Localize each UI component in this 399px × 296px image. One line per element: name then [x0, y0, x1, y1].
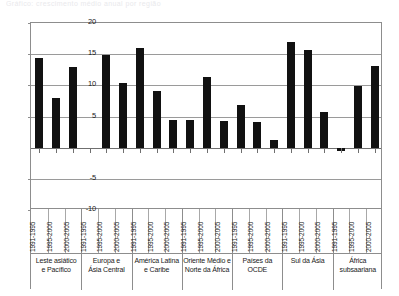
period-label: 1991-1995	[331, 212, 338, 252]
group-label-line2: e Pacífico	[31, 266, 81, 275]
period-label: 2000-2005	[113, 212, 120, 252]
group-label-line2: Ásia Central	[81, 266, 131, 275]
group-label: Europa eÁsia Central	[81, 257, 131, 274]
group-label-line2: e Caribe	[132, 266, 182, 275]
group-label-line1: Leste asiático	[31, 257, 81, 266]
period-label: 1991-1995	[180, 212, 187, 252]
group-label: América Latinae Caribe	[132, 257, 182, 274]
group-label-line2: subsaariana	[333, 266, 383, 275]
x-tick	[324, 148, 325, 153]
bar	[119, 83, 127, 147]
y-axis-label-10: 10	[72, 80, 96, 88]
period-label: 2000-2005	[63, 212, 70, 252]
x-tick	[56, 148, 57, 153]
x-tick	[257, 148, 258, 153]
x-tick	[341, 148, 342, 153]
bar	[153, 91, 161, 148]
y-axis-label-20: 20	[72, 18, 96, 26]
x-tick	[39, 148, 40, 153]
group-label: Sul da Ásia	[282, 257, 332, 266]
period-label: 1995-2000	[197, 212, 204, 252]
bar	[35, 58, 43, 148]
x-tick	[241, 148, 242, 153]
period-label: 1995-2000	[96, 212, 103, 252]
period-label: 1995-2000	[147, 212, 154, 252]
bar	[287, 42, 295, 148]
bar	[371, 66, 379, 148]
x-tick	[308, 148, 309, 153]
x-tick	[375, 148, 376, 153]
group-label-line2: Norte da África	[182, 266, 232, 275]
group-label-line1: Países da OCDE	[232, 257, 282, 274]
x-tick	[291, 148, 292, 153]
x-tick	[123, 148, 124, 153]
period-label: 1995-2000	[46, 212, 53, 252]
period-label: 1995-2000	[298, 212, 305, 252]
group-label-line1: Sul da Ásia	[282, 257, 332, 266]
bar	[304, 50, 312, 148]
period-label: 2000-2005	[214, 212, 221, 252]
group-label-line1: África	[333, 257, 383, 266]
period-label: 2000-2005	[163, 212, 170, 252]
bar	[169, 120, 177, 148]
y-axis-label-5: 5	[72, 112, 96, 120]
bar	[69, 67, 77, 148]
bar	[253, 122, 261, 148]
bar	[320, 112, 328, 148]
x-tick	[207, 148, 208, 153]
x-tick	[106, 148, 107, 153]
x-tick	[173, 148, 174, 153]
period-label: 1991-1995	[29, 212, 36, 252]
y-axis-label-15: 15	[72, 49, 96, 57]
bar-chart: 2015105-5-10 1991-19951995-20002000-2005…	[0, 0, 399, 296]
period-label: 1995-2000	[247, 212, 254, 252]
period-label: 2000-2005	[314, 212, 321, 252]
group-label: Países da OCDE	[232, 257, 282, 274]
x-tick	[274, 148, 275, 153]
period-label: 1991-1995	[80, 212, 87, 252]
group-label: Oriente Médio eNorte da África	[182, 257, 232, 274]
bar	[220, 121, 228, 147]
period-label: 1991-1995	[231, 212, 238, 252]
bar	[237, 105, 245, 148]
x-tick	[90, 148, 91, 153]
group-label-band: Leste asiáticoe PacíficoEuropa eÁsia Cen…	[30, 253, 382, 289]
group-label-line1: Oriente Médio e	[182, 257, 232, 266]
period-label: 2000-2005	[365, 212, 372, 252]
bar	[186, 120, 194, 148]
x-tick	[140, 148, 141, 153]
period-label: 1991-1995	[281, 212, 288, 252]
y-axis-label--5: -5	[72, 174, 96, 182]
group-label-line1: América Latina	[132, 257, 182, 266]
period-label: 2000-2005	[264, 212, 271, 252]
period-label: 1991-1995	[130, 212, 137, 252]
bar	[136, 48, 144, 148]
period-label: 1995-2000	[348, 212, 355, 252]
bar	[52, 98, 60, 147]
bar	[354, 86, 362, 148]
x-tick	[358, 148, 359, 153]
bar	[270, 140, 278, 148]
bar	[102, 55, 110, 148]
x-tick	[190, 148, 191, 153]
period-label-band: 1991-19951995-20002000-20051991-19951995…	[30, 209, 382, 253]
bar	[203, 77, 211, 148]
x-tick	[157, 148, 158, 153]
x-tick	[224, 148, 225, 153]
x-tick	[73, 148, 74, 153]
group-label: Leste asiáticoe Pacífico	[31, 257, 81, 274]
group-label-line1: Europa e	[81, 257, 131, 266]
group-label: Áfricasubsaariana	[333, 257, 383, 274]
